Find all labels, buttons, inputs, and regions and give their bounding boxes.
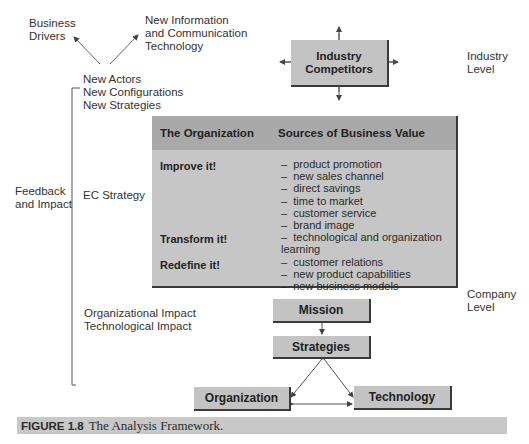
feedback-impact-label: Feedback and Impact xyxy=(15,185,72,211)
table-header: The Organization Sources of Business Val… xyxy=(152,116,456,150)
new-strategies-label: New Strategies xyxy=(83,99,183,112)
company-level-line1: Company xyxy=(467,288,516,301)
header-the-organization: The Organization xyxy=(152,127,278,139)
company-level-line2: Level xyxy=(467,301,516,314)
organizational-impact-label: Organizational Impact xyxy=(84,307,196,320)
figure-title: The Analysis Framework. xyxy=(89,418,224,434)
list-item: brand image xyxy=(281,219,456,231)
industry-level-line1: Industry xyxy=(467,50,508,63)
business-drivers-label: Business Drivers xyxy=(29,17,76,43)
ec-strategy-label: EC Strategy xyxy=(83,189,145,202)
row-label-transform: Transform it! xyxy=(160,233,227,245)
list-item: new business models xyxy=(281,280,456,292)
industry-level-label: Industry Level xyxy=(467,50,508,76)
header-sources-of-business-value: Sources of Business Value xyxy=(278,127,425,139)
organization-box: Organization xyxy=(194,387,291,411)
list-item: product promotion xyxy=(281,158,456,170)
feedback-line2: and Impact xyxy=(15,198,72,211)
strategies-box: Strategies xyxy=(273,336,371,359)
impacts-label: Organizational Impact Technological Impa… xyxy=(84,307,196,333)
list-item: new sales channel xyxy=(281,170,456,182)
new-configurations-label: New Configurations xyxy=(83,86,183,99)
business-drivers-line1: Business xyxy=(29,17,76,30)
business-drivers-line2: Drivers xyxy=(29,30,76,43)
organization-value-table: The Organization Sources of Business Val… xyxy=(152,116,458,288)
technological-impact-label: Technological Impact xyxy=(84,320,196,333)
figure-number: FIGURE 1.8 xyxy=(21,420,84,432)
list-item: technological and organization learning xyxy=(281,231,456,255)
new-ict-line3: Technology xyxy=(145,40,247,53)
mission-box: Mission xyxy=(273,299,371,323)
list-item: customer service xyxy=(281,207,456,219)
industry-competitors-line2: Competitors xyxy=(303,63,375,76)
industry-competitors-box: Industry Competitors xyxy=(291,40,389,87)
row-label-redefine: Redefine it! xyxy=(160,259,220,271)
new-actors-configurations-strategies: New Actors New Configurations New Strate… xyxy=(83,73,183,112)
list-item: new product capabilities xyxy=(281,268,456,280)
industry-level-line2: Level xyxy=(467,63,508,76)
list-item: customer relations xyxy=(281,256,456,268)
figure-caption: FIGURE 1.8 The Analysis Framework. xyxy=(17,417,507,434)
new-ict-line1: New Information xyxy=(145,14,247,27)
feedback-line1: Feedback xyxy=(15,185,72,198)
industry-competitors-line1: Industry xyxy=(303,50,375,63)
technology-box: Technology xyxy=(354,386,452,410)
value-list: product promotion new sales channel dire… xyxy=(281,158,456,292)
company-level-label: Company Level xyxy=(467,288,516,314)
new-actors-label: New Actors xyxy=(83,73,183,86)
list-item: time to market xyxy=(281,195,456,207)
new-ict-line2: and Communication xyxy=(145,27,247,40)
new-ict-label: New Information and Communication Techno… xyxy=(145,14,247,53)
list-item: direct savings xyxy=(281,182,456,194)
row-label-improve: Improve it! xyxy=(160,160,216,172)
